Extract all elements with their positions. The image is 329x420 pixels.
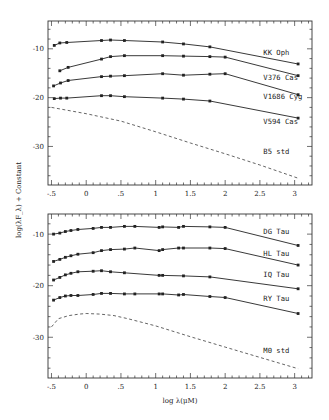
data-point-marker (52, 260, 55, 263)
series-line-m0-std (52, 314, 299, 369)
data-point-marker (123, 74, 126, 77)
data-point-marker (297, 287, 300, 290)
series-line-hl-tau (54, 248, 299, 265)
data-point-marker (224, 56, 227, 59)
data-point-marker (92, 251, 95, 254)
y-tick-label: -20 (33, 282, 44, 290)
x-axis-title: log λ(μM) (163, 397, 198, 405)
data-point-marker (158, 274, 161, 277)
y-axis-title: log(λF_λ) + Constant (15, 162, 23, 238)
data-point-marker (109, 39, 112, 42)
data-point-marker (65, 41, 68, 44)
data-point-marker (224, 72, 227, 75)
data-point-marker (123, 293, 126, 296)
data-point-marker (224, 247, 227, 250)
y-tick-label: -10 (33, 231, 44, 239)
data-point-marker (109, 75, 112, 78)
x-tick-label: 1 (153, 190, 157, 198)
data-point-marker (208, 295, 211, 298)
x-tick-label: 3 (292, 383, 296, 391)
data-point-marker (70, 254, 73, 257)
data-point-marker (182, 293, 185, 296)
data-point-marker (58, 258, 61, 261)
data-point-marker (123, 39, 126, 42)
data-point-marker (208, 276, 211, 279)
series-label: V376 Cas (263, 73, 298, 82)
data-point-marker (182, 247, 185, 250)
y-tick-label: -20 (33, 94, 44, 102)
data-point-marker (53, 97, 56, 100)
data-point-marker (182, 98, 185, 101)
data-point-marker (133, 293, 136, 296)
data-point-marker (161, 41, 164, 44)
data-point-marker (208, 55, 211, 58)
data-point-marker (182, 43, 185, 46)
data-point-marker (58, 296, 61, 299)
series-line-v376-cas (60, 56, 298, 76)
y-tick-label: -30 (33, 143, 44, 151)
data-point-marker (92, 293, 95, 296)
y-tick-label: -10 (33, 45, 44, 53)
data-point-marker (208, 100, 211, 103)
series-line-v1686-cyg (54, 74, 299, 95)
x-tick-label: 2 (223, 190, 227, 198)
data-point-marker (64, 295, 67, 298)
series-label: B5 std (263, 147, 289, 156)
data-point-marker (64, 256, 67, 259)
data-point-marker (224, 226, 227, 229)
data-point-marker (109, 292, 112, 295)
x-tick-label: 2.5 (254, 190, 265, 198)
data-point-marker (76, 270, 79, 273)
sed-chart: -.50.511.522.53-10-20-30KK OphV376 CasV1… (0, 0, 329, 420)
series-line-iq-tau (54, 271, 299, 289)
series-label: KK Oph (263, 48, 289, 57)
data-point-marker (52, 233, 55, 236)
data-point-marker (161, 248, 164, 251)
data-point-marker (58, 232, 61, 235)
data-point-marker (92, 227, 95, 230)
data-point-marker (70, 294, 73, 297)
data-point-marker (177, 247, 180, 250)
data-point-marker (133, 225, 136, 228)
y-tick-label: -30 (33, 334, 44, 342)
data-point-marker (161, 54, 164, 57)
data-point-marker (161, 274, 164, 277)
top-panel: -.50.511.522.53-10-20-30KK OphV376 CasV1… (33, 21, 312, 198)
data-point-marker (123, 54, 126, 57)
data-point-marker (100, 94, 103, 97)
series-label: DG Tau (263, 227, 289, 236)
x-tick-label: 3 (292, 190, 296, 198)
series-line-dg-tau (54, 226, 299, 245)
series-label: RY Tau (263, 294, 289, 303)
data-point-marker (123, 248, 126, 251)
x-tick-label: 1 (153, 383, 157, 391)
data-point-marker (297, 63, 300, 66)
data-point-marker (177, 226, 180, 229)
data-point-marker (161, 293, 164, 296)
x-tick-label: -.5 (47, 383, 56, 391)
data-point-marker (158, 226, 161, 229)
data-point-marker (64, 230, 67, 233)
data-point-marker (64, 273, 67, 276)
data-point-marker (70, 229, 73, 232)
data-point-marker (182, 55, 185, 58)
data-point-marker (161, 97, 164, 100)
data-point-marker (100, 269, 103, 272)
data-point-marker (100, 292, 103, 295)
data-point-marker (297, 312, 300, 315)
x-tick-label: 1.5 (185, 383, 196, 391)
data-point-marker (158, 249, 161, 252)
data-point-marker (133, 247, 136, 250)
series-line-kk-oph (54, 40, 298, 64)
data-point-marker (65, 97, 68, 100)
data-point-marker (53, 44, 56, 47)
plot-frame (48, 21, 312, 185)
series-label: M0 std (263, 346, 289, 355)
data-point-marker (100, 75, 103, 78)
data-point-marker (100, 249, 103, 252)
data-point-marker (109, 248, 112, 251)
data-point-marker (123, 95, 126, 98)
data-point-marker (123, 271, 126, 274)
data-point-marker (52, 85, 55, 88)
data-point-marker (76, 253, 79, 256)
